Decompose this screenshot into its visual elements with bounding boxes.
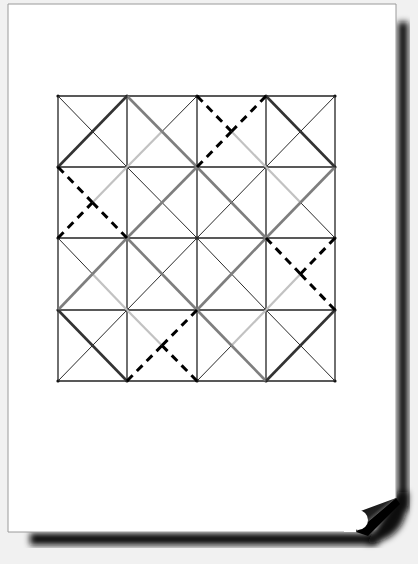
right-shadow (398, 22, 408, 510)
paper-sheet-body (8, 4, 396, 532)
paper-sheet (8, 4, 396, 532)
paper-diagram (0, 0, 418, 564)
curl-tip-fill (344, 520, 356, 532)
bottom-shadow (30, 533, 378, 545)
